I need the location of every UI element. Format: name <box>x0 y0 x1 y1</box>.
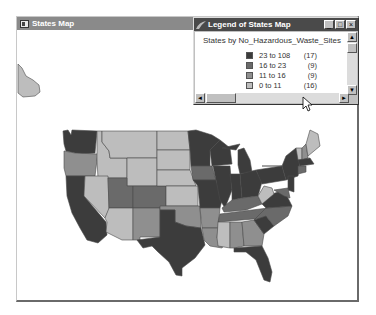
horizontal-scrollbar[interactable]: ◄ ► <box>195 93 349 103</box>
legend-titlebar[interactable]: Legend of States Map _ □ × <box>194 18 358 31</box>
state-florida <box>234 246 272 282</box>
legend-title: Legend of States Map <box>208 20 291 29</box>
state-southdakota <box>157 150 190 170</box>
close-button[interactable]: × <box>346 20 356 29</box>
color-swatch <box>246 62 253 69</box>
color-swatch <box>246 52 253 59</box>
state-oregon <box>64 151 98 176</box>
legend-heading: States by No_Hazardous_Waste_Sites <box>195 36 349 45</box>
class-count: (9) <box>297 71 317 80</box>
legend-class-row: 11 to 16 (9) <box>246 70 317 80</box>
mouse-pointer-icon <box>302 96 314 112</box>
scroll-left-arrow-icon[interactable]: ◄ <box>195 93 205 103</box>
legend-window: Legend of States Map _ □ × States by No_… <box>193 17 359 105</box>
legend-window-icon <box>196 21 206 29</box>
state-washington <box>63 130 97 154</box>
class-range: 16 to 23 <box>259 61 297 70</box>
vertical-scrollbar[interactable]: ▲ ▼ <box>347 32 357 95</box>
state-wyoming <box>127 158 157 186</box>
scroll-up-arrow-icon[interactable]: ▲ <box>347 32 357 42</box>
legend-class-list: 23 to 108 (17) 16 to 23 (9) 11 to 16 (9)… <box>246 50 317 90</box>
state-northdakota <box>157 131 190 150</box>
state-newmexico <box>133 208 160 240</box>
color-swatch <box>246 72 253 79</box>
class-range: 23 to 108 <box>259 51 297 60</box>
state-newjersey <box>288 176 294 192</box>
minimize-button[interactable]: _ <box>324 20 334 29</box>
legend-class-row: 0 to 11 (16) <box>246 80 317 90</box>
state-arizona <box>105 208 133 240</box>
legend-class-row: 16 to 23 (9) <box>246 60 317 70</box>
state-kansas <box>166 186 198 206</box>
maximize-button[interactable]: □ <box>335 20 345 29</box>
state-connecticut <box>298 166 306 174</box>
scroll-right-arrow-icon[interactable]: ► <box>339 93 349 103</box>
state-maine <box>306 130 320 156</box>
state-alabama <box>230 222 244 248</box>
state-mississippi <box>217 222 230 248</box>
state-nebraska <box>157 170 196 186</box>
class-count: (9) <box>297 61 317 70</box>
class-range: 11 to 16 <box>259 71 297 80</box>
state-alaska <box>18 64 40 97</box>
state-arkansas <box>200 208 220 228</box>
class-count: (16) <box>297 81 317 90</box>
legend-content: States by No_Hazardous_Waste_Sites 23 to… <box>195 32 349 95</box>
state-colorado <box>133 186 166 208</box>
vertical-scroll-thumb[interactable] <box>347 43 357 53</box>
class-count: (17) <box>297 51 317 60</box>
horizontal-scroll-thumb[interactable] <box>206 93 236 103</box>
color-swatch <box>246 82 253 89</box>
legend-class-row: 23 to 108 (17) <box>246 50 317 60</box>
state-montana <box>102 131 157 158</box>
class-range: 0 to 11 <box>259 81 297 90</box>
state-iowa <box>191 166 216 180</box>
